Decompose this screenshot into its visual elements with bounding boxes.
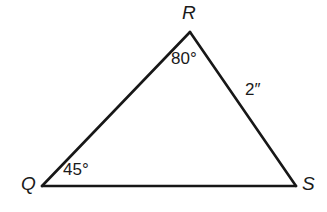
angle-label-q: 45°	[63, 161, 89, 178]
angle-label-r: 80°	[171, 50, 197, 67]
vertex-label-q: Q	[21, 174, 36, 193]
vertex-label-r: R	[182, 3, 196, 22]
geometry-figure: R Q S 80° 45° 2″	[0, 0, 327, 212]
side-length-label-rs: 2″	[245, 81, 260, 98]
edge-RS	[190, 32, 296, 186]
vertex-label-s: S	[302, 174, 315, 193]
triangle-drawing	[0, 0, 327, 212]
